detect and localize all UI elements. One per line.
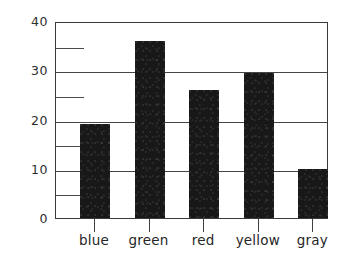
- bar-gray: [298, 169, 328, 218]
- x-tick-label-gray: gray: [297, 234, 328, 248]
- y-tick-label-0: 0: [39, 213, 48, 226]
- bar-blue: [80, 124, 110, 218]
- plot-area: [55, 22, 328, 219]
- y-axis-labels: 010203040: [0, 0, 48, 268]
- y-tick-label-20: 20: [31, 115, 48, 128]
- x-tick-label-red: red: [192, 234, 215, 248]
- x-tick-label-blue: blue: [79, 234, 109, 248]
- x-tick-label-green: green: [129, 234, 169, 248]
- bar-yellow: [244, 73, 274, 218]
- x-tick-label-yellow: yellow: [236, 234, 280, 248]
- x-tick-mark-blue: [94, 219, 95, 232]
- x-axis-labels: bluegreenredyellowgray: [55, 234, 328, 258]
- x-tick-mark-yellow: [258, 219, 259, 232]
- bar-red: [189, 90, 219, 218]
- bar-chart: 010203040 bluegreenredyellowgray: [0, 0, 350, 268]
- x-tick-mark-red: [203, 219, 204, 232]
- y-tick-label-30: 30: [31, 65, 48, 78]
- minor-tick-25: [56, 97, 84, 98]
- x-axis-ticks: [55, 219, 328, 233]
- bar-green: [135, 41, 165, 218]
- minor-tick-35: [56, 48, 84, 49]
- y-tick-label-10: 10: [31, 164, 48, 177]
- x-tick-mark-gray: [312, 219, 313, 232]
- y-tick-label-40: 40: [31, 16, 48, 29]
- gridline-30: [56, 72, 327, 73]
- x-tick-mark-green: [149, 219, 150, 232]
